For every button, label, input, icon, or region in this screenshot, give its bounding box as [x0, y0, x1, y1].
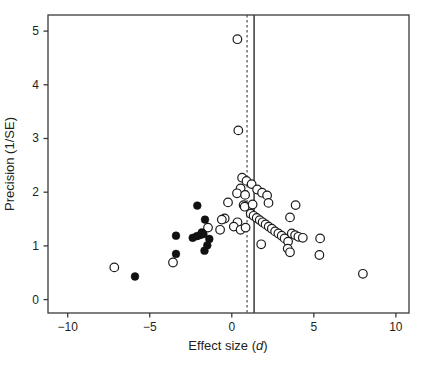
data-points [110, 35, 367, 281]
filled-circle-point [172, 232, 180, 240]
filled-circle-point [131, 273, 139, 281]
y-axis-title: Precision (1/SE) [2, 117, 17, 211]
open-circle-point [286, 213, 295, 222]
open-circle-point [241, 191, 250, 200]
open-circle-point [240, 202, 249, 211]
open-circle-point [359, 270, 368, 279]
open-circle-point [291, 201, 300, 210]
x-axis-title-suffix: ) [263, 338, 267, 353]
filled-circle-point [201, 247, 209, 255]
x-tick-label: 5 [310, 320, 317, 334]
open-circle-point [234, 126, 243, 135]
y-tick-label: 0 [32, 293, 39, 307]
open-circle-point [248, 200, 257, 209]
open-circle-point [110, 263, 119, 272]
x-tick-label: −10 [58, 320, 79, 334]
y-tick-label: 3 [32, 131, 39, 145]
open-circle-point [233, 35, 242, 44]
y-tick-label: 4 [32, 78, 39, 92]
open-circle-point [315, 251, 324, 260]
open-circle-point [257, 240, 266, 249]
plot-area-border [48, 15, 409, 313]
axis-ticks: −10−50510012345 [32, 24, 403, 334]
open-circle-point [316, 234, 325, 243]
filled-circle-point [193, 202, 201, 210]
open-circle-point [216, 226, 225, 235]
open-circle-point [264, 199, 273, 208]
x-tick-label: 10 [389, 320, 403, 334]
x-axis-title: Effect size (d) [188, 338, 267, 353]
x-tick-label: −5 [143, 320, 157, 334]
funnel-plot-svg: −10−50510012345 Precision (1/SE) Effect … [0, 0, 425, 368]
x-axis-title-prefix: Effect size ( [188, 338, 256, 353]
open-circle-point [241, 223, 250, 232]
y-tick-label: 5 [32, 24, 39, 38]
open-circle-point [218, 215, 227, 224]
y-tick-label: 1 [32, 239, 39, 253]
open-circle-point [286, 248, 295, 257]
funnel-plot-figure: −10−50510012345 Precision (1/SE) Effect … [0, 0, 425, 368]
reference-lines [247, 15, 254, 313]
y-tick-label: 2 [32, 185, 39, 199]
open-circle-point [224, 198, 233, 207]
open-circle-point [169, 258, 178, 267]
filled-circle-point [201, 216, 209, 224]
open-circle-point [233, 189, 242, 198]
open-circle-point [299, 234, 308, 243]
filled-circle-point [172, 250, 180, 258]
x-tick-label: 0 [228, 320, 235, 334]
